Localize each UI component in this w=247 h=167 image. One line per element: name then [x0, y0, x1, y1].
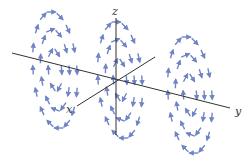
arrow-icon	[177, 61, 180, 70]
arrow-icon	[141, 98, 142, 107]
arrow-icon	[47, 120, 53, 126]
arrow-icon	[73, 43, 75, 52]
arrow-icon	[40, 13, 46, 20]
arrow-icon	[121, 40, 127, 47]
arrow-icon	[131, 35, 135, 43]
arrow-icon	[199, 69, 202, 78]
arrow-icon	[64, 120, 70, 127]
arrow-icon	[77, 66, 78, 75]
arrow-icon	[72, 107, 75, 116]
arrow-icon	[137, 117, 140, 126]
arrow-icon	[196, 91, 197, 100]
arrow-icon	[68, 87, 70, 96]
arrow-icon	[122, 23, 128, 29]
arrow-icon	[212, 91, 213, 100]
arrow-icon	[46, 96, 50, 104]
right-loop	[168, 37, 213, 153]
arrow-icon	[208, 68, 210, 77]
arrow-icon	[211, 113, 212, 122]
arrow-icon	[66, 25, 70, 33]
y-axis-label: y	[234, 105, 242, 118]
arrow-icon	[207, 132, 210, 141]
arrow-icon	[57, 13, 63, 19]
arrow-icon	[50, 84, 55, 92]
arrow-icon	[33, 43, 34, 52]
arrow-icon	[107, 46, 110, 55]
arrow-icon	[126, 76, 127, 85]
arrow-icon	[203, 112, 205, 121]
arrow-icon	[185, 109, 190, 117]
arrow-icon	[190, 74, 195, 82]
arrow-icon	[170, 50, 173, 59]
z-axis-label: z	[111, 5, 118, 18]
arrow-icon	[112, 130, 118, 136]
arrow-icon	[183, 91, 184, 100]
arrow-icon	[46, 29, 54, 32]
arrow-icon	[170, 113, 172, 122]
arrow-icon	[142, 76, 143, 85]
arrow-icon	[175, 132, 179, 140]
arrow-icon	[49, 49, 53, 57]
arrow-icon	[105, 117, 109, 125]
arrow-icon	[57, 83, 61, 91]
arrow-icon	[182, 145, 188, 151]
arrow-icon	[192, 38, 198, 44]
arrow-icon	[64, 44, 67, 53]
arrow-icon	[51, 108, 59, 111]
arrow-icon	[98, 76, 99, 85]
arrow-icon	[122, 93, 126, 101]
arrow-icon	[181, 54, 189, 57]
arrow-icon	[191, 55, 197, 62]
arrow-icon	[61, 66, 62, 75]
arrow-icon	[76, 88, 77, 97]
arrow-icon	[175, 38, 181, 45]
arrow-icon	[35, 88, 37, 97]
arrow-icon	[100, 35, 103, 44]
arrow-icon	[134, 76, 135, 85]
arrow-icon	[105, 23, 111, 30]
arrow-icon	[129, 54, 132, 63]
arrow-icon	[106, 87, 108, 96]
vector-field-figure: x y z	[0, 0, 247, 167]
arrow-icon	[186, 133, 194, 136]
arrow-icon	[181, 121, 185, 129]
x-axis-label: x	[66, 103, 73, 116]
arrow-icon	[69, 66, 70, 75]
arrow-icon	[111, 106, 115, 114]
arrow-icon	[111, 39, 119, 42]
arrow-icon	[133, 97, 135, 106]
arrow-icon	[116, 118, 124, 121]
arrow-icon	[55, 49, 60, 57]
arrow-icon	[98, 53, 99, 62]
arrow-icon	[196, 128, 201, 135]
arrow-icon	[176, 102, 178, 111]
arrow-icon	[33, 66, 34, 75]
arrow-icon	[35, 25, 38, 34]
arrow-icon	[184, 74, 188, 82]
arrow-icon	[120, 59, 125, 67]
arrow-icon	[192, 108, 196, 116]
arrow-icon	[199, 145, 205, 152]
arrow-icon	[204, 91, 205, 100]
arrow-icon	[138, 53, 140, 62]
arrow-icon	[201, 50, 205, 58]
arrow-icon	[40, 107, 44, 115]
arrow-icon	[168, 68, 169, 77]
arrow-icon	[56, 30, 62, 37]
arrow-icon	[42, 36, 45, 45]
arrow-icon	[48, 66, 49, 75]
arrow-icon	[100, 98, 102, 107]
vector-field-arrows	[33, 12, 213, 153]
arrow-icon	[126, 113, 131, 120]
arrow-icon	[41, 77, 43, 86]
arrow-icon	[129, 130, 135, 137]
